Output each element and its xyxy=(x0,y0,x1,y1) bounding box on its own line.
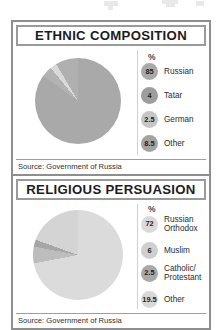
charts-container: ETHNIC COMPOSITION % 85 Russian 4 xyxy=(11,20,211,330)
legend-value-german: 2.5 xyxy=(144,116,154,123)
legend-item-muslim: 6 Muslim xyxy=(141,242,190,259)
legend-religious: % 72 Russian Orthodox 6 Muslim 2.5 xyxy=(141,204,207,311)
legend-label-tatar: Tatar xyxy=(164,91,182,100)
legend-label-catholic-protestant: Catholic/ Protestant xyxy=(164,264,201,282)
legend-bubble-other: 8.5 xyxy=(141,135,158,152)
pie-slices-ethnic xyxy=(35,58,121,144)
legend-value-russian: 85 xyxy=(145,68,153,75)
legend-item-tatar: 4 Tatar xyxy=(141,87,182,104)
legend-item-other: 8.5 Other xyxy=(141,135,184,152)
source-note-religious: Source: Government of Russia xyxy=(16,313,206,328)
legend-label-muslim: Muslim xyxy=(164,246,190,255)
legend-value-catholic-protestant: 2.5 xyxy=(144,269,154,276)
panel-title-text: RELIGIOUS PERSUASION xyxy=(26,182,195,197)
legend-percent-header: % xyxy=(148,204,156,214)
legend-percent-header: % xyxy=(148,52,156,62)
legend-item-other: 19.5 Other xyxy=(141,291,184,308)
column-divider xyxy=(137,50,138,155)
legend-label-other: Other xyxy=(164,139,184,148)
legend-label-russian-orthodox: Russian Orthodox xyxy=(164,215,198,233)
legend-bubble-german: 2.5 xyxy=(141,111,158,128)
panel-body-religious: % 72 Russian Orthodox 6 Muslim 2.5 xyxy=(13,200,209,313)
panel-title-religious: RELIGIOUS PERSUASION xyxy=(16,179,206,200)
panel-body-ethnic: % 85 Russian 4 Tatar 2.5 xyxy=(13,46,209,159)
legend-bubble-catholic-protestant: 2.5 xyxy=(141,265,158,282)
legend-bubble-russian-orthodox: 72 xyxy=(141,216,158,233)
panel-title-ethnic: ETHNIC COMPOSITION xyxy=(16,25,206,46)
source-note-ethnic: Source: Government of Russia xyxy=(16,159,206,174)
column-divider xyxy=(137,204,138,309)
legend-item-russian: 85 Russian xyxy=(141,63,194,80)
legend-bubble-muslim: 6 xyxy=(141,242,158,259)
legend-item-german: 2.5 German xyxy=(141,111,194,128)
panel-religious-persuasion: RELIGIOUS PERSUASION % 72 Russian Orthod… xyxy=(13,174,209,328)
legend-item-catholic-protestant: 2.5 Catholic/ Protestant xyxy=(141,264,201,282)
legend-bubble-tatar: 4 xyxy=(141,87,158,104)
scan-artifacts xyxy=(0,0,224,14)
legend-value-russian-orthodox: 72 xyxy=(145,220,153,227)
legend-bubble-russian: 85 xyxy=(141,63,158,80)
legend-label-german: German xyxy=(164,115,194,124)
legend-label-other: Other xyxy=(164,295,184,304)
panel-title-text: ETHNIC COMPOSITION xyxy=(35,28,187,43)
legend-value-muslim: 6 xyxy=(147,247,151,254)
legend-item-russian-orthodox: 72 Russian Orthodox xyxy=(141,215,198,233)
legend-value-other: 19.5 xyxy=(142,296,156,303)
legend-label-russian: Russian xyxy=(164,67,194,76)
legend-ethnic: % 85 Russian 4 Tatar 2.5 xyxy=(141,52,207,157)
legend-value-other: 8.5 xyxy=(144,140,154,147)
legend-bubble-other: 19.5 xyxy=(141,291,158,308)
pie-slices-religious xyxy=(33,210,123,300)
legend-value-tatar: 4 xyxy=(147,92,151,99)
panel-ethnic-composition: ETHNIC COMPOSITION % 85 Russian 4 xyxy=(13,25,209,174)
